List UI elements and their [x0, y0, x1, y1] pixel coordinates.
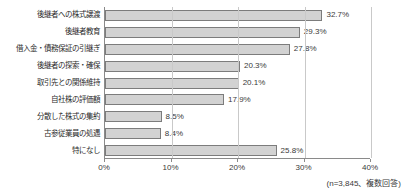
category-label: 特になし [72, 147, 100, 155]
bar [105, 27, 300, 38]
x-tick-mark [104, 159, 105, 162]
bar [105, 111, 162, 122]
bar-value-label: 8.4% [165, 130, 183, 138]
x-tick-mark [171, 159, 172, 162]
x-tick-mark [237, 159, 238, 162]
bar-value-label: 17.9% [228, 96, 251, 104]
bar-value-label: 25.8% [281, 147, 304, 155]
bar-value-label: 32.7% [326, 11, 349, 19]
category-label: 後継者への株式譲渡 [37, 11, 100, 19]
x-tick-label: 0% [98, 164, 110, 172]
chart-footnote: (n=3,845、複数回答) [327, 180, 401, 188]
category-label: 分散した株式の集約 [37, 113, 100, 121]
category-label: 後継者教育 [65, 28, 100, 36]
x-tick-label: 10% [162, 164, 178, 172]
x-tick-label: 30% [295, 164, 311, 172]
bar [105, 44, 290, 55]
bar-value-label: 20.1% [243, 79, 266, 87]
x-tick-label: 40% [362, 164, 378, 172]
x-tick-mark [304, 159, 305, 162]
bar-value-label: 8.5% [166, 113, 184, 121]
gridline [238, 7, 239, 158]
x-tick-mark [370, 159, 371, 162]
horizontal-bar-chart: 32.7%29.3%27.8%20.3%20.1%17.9%8.5%8.4%25… [0, 0, 407, 193]
x-tick-label: 20% [229, 164, 245, 172]
category-label: 借入金・債務保証の引継ぎ [16, 45, 100, 53]
bar [105, 128, 161, 139]
category-label: 古参従業員の処遇 [44, 130, 100, 138]
category-label: 自社株の評価額 [51, 96, 100, 104]
gridline [371, 7, 372, 158]
plot-area: 32.7%29.3%27.8%20.3%20.1%17.9%8.5%8.4%25… [104, 7, 370, 159]
bar-value-label: 20.3% [244, 62, 267, 70]
bar [105, 10, 322, 21]
category-label: 後継者の探索・確保 [37, 62, 100, 70]
gridline [305, 7, 306, 158]
gridline [172, 7, 173, 158]
category-label: 取引先との関係維持 [37, 79, 100, 87]
bar-value-label: 29.3% [304, 28, 327, 36]
bar [105, 145, 277, 156]
bar [105, 94, 224, 105]
